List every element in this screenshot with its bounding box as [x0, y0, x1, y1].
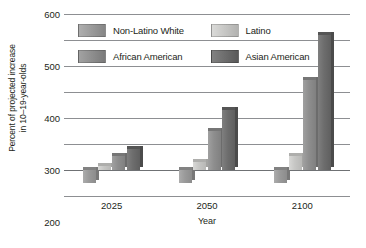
bar-front-face	[127, 149, 140, 170]
bar	[318, 35, 331, 170]
bar-side-face	[331, 32, 334, 167]
legend-swatch	[78, 24, 106, 37]
bar	[208, 131, 221, 170]
bar-front-face	[179, 170, 192, 183]
bar-front-face	[222, 110, 235, 170]
bar-front-face	[289, 156, 302, 170]
y-axis-tick-label: 200	[20, 217, 60, 228]
bar	[179, 170, 192, 183]
bar-side-face	[235, 107, 238, 167]
legend-swatch	[78, 50, 106, 63]
legend-item[interactable]: Asian American	[211, 50, 318, 63]
bar-top-face	[98, 163, 111, 166]
bar-top-face	[127, 146, 140, 149]
legend-swatch	[211, 24, 239, 37]
bar-top-face	[83, 167, 96, 170]
legend-item[interactable]: Non-Latino White	[78, 24, 193, 37]
bar-top-face	[222, 107, 235, 110]
legend-label: Latino	[246, 25, 271, 36]
bar-side-face	[140, 146, 143, 167]
bar-top-face	[318, 32, 331, 35]
bar	[98, 166, 111, 170]
bar-top-face	[112, 153, 125, 156]
bar	[193, 162, 206, 170]
legend-label: African American	[113, 51, 182, 62]
bar-front-face	[303, 80, 316, 170]
bar	[222, 110, 235, 170]
bar	[289, 156, 302, 170]
legend-label: Non-Latino White	[113, 25, 184, 36]
bar-front-face	[112, 156, 125, 170]
bar-top-face	[193, 159, 206, 162]
bar-front-face	[98, 166, 111, 170]
y-axis-tick-label: 500	[20, 61, 60, 72]
bar-front-face	[208, 131, 221, 170]
legend-item[interactable]: African American	[78, 50, 193, 63]
bar	[127, 149, 140, 170]
legend-item[interactable]: Latino	[211, 24, 318, 37]
chart-legend: Non-Latino WhiteLatinoAfrican AmericanAs…	[78, 24, 318, 63]
bar	[303, 80, 316, 170]
x-axis-tick-label: 2050	[196, 200, 217, 211]
y-axis-tick-label: 600	[20, 9, 60, 20]
bar-front-face	[318, 35, 331, 170]
bar	[112, 156, 125, 170]
bar-chart-figure: Percent of projected increase in 10–19-y…	[0, 0, 366, 248]
bar-top-face	[289, 153, 302, 156]
bar	[83, 170, 96, 183]
bar-front-face	[83, 170, 96, 183]
bar-top-face	[274, 167, 287, 170]
plot-area: 6005004003002001000–10 Non-Latino WhiteL…	[64, 14, 350, 196]
bar-top-face	[179, 167, 192, 170]
x-axis-tick-label: 2100	[292, 200, 313, 211]
y-axis-tick-label: 300	[20, 165, 60, 176]
bar-front-face	[193, 162, 206, 170]
y-axis-title-line-1: Percent of projected increase	[7, 44, 18, 152]
bar-top-face	[208, 128, 221, 131]
legend-label: Asian American	[246, 51, 310, 62]
gridline: –10	[64, 196, 350, 197]
x-axis-tick-label: 2025	[101, 200, 122, 211]
bar-front-face	[274, 170, 287, 183]
legend-swatch	[211, 50, 239, 63]
x-axis-title: Year	[64, 216, 350, 226]
bar-top-face	[303, 77, 316, 80]
y-axis-tick-label: 400	[20, 113, 60, 124]
bar	[274, 170, 287, 183]
